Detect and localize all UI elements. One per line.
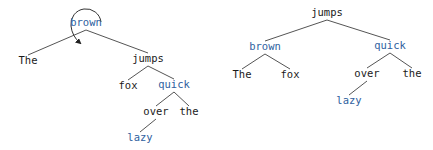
tree-edge [327, 20, 390, 40]
tree-node-brown: brown [249, 40, 281, 52]
tree-edge [242, 54, 265, 69]
tree-node-lazy: lazy [127, 131, 152, 143]
tree-edge [128, 66, 148, 80]
tree-edge [349, 81, 367, 95]
tree-edge [174, 92, 189, 106]
tree-node-fox: fox [281, 68, 300, 80]
tree-node-quick: quick [158, 78, 190, 90]
tree-rotation-diagram: brownThejumpsfoxquickoverthelazyjumpsbro… [0, 0, 433, 150]
tree-edge [156, 92, 174, 106]
tree-node-quick: quick [374, 39, 406, 51]
tree-edge [86, 30, 148, 53]
tree-node-jumps: jumps [311, 6, 343, 18]
tree-edge [390, 53, 412, 68]
tree-edge [28, 30, 86, 55]
tree-edge [265, 54, 290, 69]
tree-node-over: over [354, 67, 379, 79]
tree-node-brown: brown [70, 16, 102, 28]
tree-edge [265, 20, 327, 41]
tree-edge [367, 53, 390, 68]
tree-node-the: The [233, 68, 252, 80]
tree-node-over: over [143, 105, 168, 117]
tree-node-the: The [19, 54, 38, 66]
tree-node-the: the [180, 105, 199, 117]
tree-node-the: the [403, 67, 422, 79]
tree-node-fox: fox [119, 79, 138, 91]
tree-node-jumps: jumps [132, 52, 164, 64]
nodes-layer: brownThejumpsfoxquickoverthelazyjumpsbro… [19, 6, 422, 143]
tree-node-lazy: lazy [336, 94, 361, 106]
